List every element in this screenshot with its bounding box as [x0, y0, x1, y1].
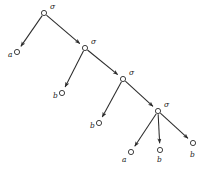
- tree-leaf-node: b: [157, 147, 163, 164]
- tree-edge: [21, 16, 42, 47]
- node-label: b: [90, 121, 95, 130]
- node-label: b: [53, 91, 58, 100]
- node-circle: [96, 120, 101, 125]
- node-label: a: [122, 155, 126, 164]
- tree-edge: [160, 113, 188, 138]
- tree-edge: [135, 114, 157, 147]
- node-circle: [120, 76, 125, 81]
- tree-edge: [87, 50, 117, 75]
- node-label: b: [157, 155, 162, 164]
- node-circle: [59, 90, 64, 95]
- edge-layer: [21, 15, 188, 146]
- node-circle: [82, 45, 87, 50]
- tree-leaf-node: b: [190, 140, 196, 159]
- tree-internal-node: σ: [41, 2, 56, 16]
- node-circle: [128, 149, 133, 154]
- tree-leaf-node: b: [53, 90, 65, 100]
- tree-leaf-node: a: [122, 149, 134, 164]
- node-label: σ: [164, 100, 170, 109]
- node-circle: [14, 49, 19, 54]
- tree-edge: [65, 51, 83, 87]
- derivation-tree-diagram: σaσbσbσabb: [0, 0, 209, 172]
- tree-internal-node: σ: [155, 100, 170, 114]
- tree-internal-node: σ: [120, 68, 135, 82]
- node-label: a: [8, 50, 12, 59]
- node-label: σ: [50, 2, 56, 11]
- node-label: σ: [91, 37, 97, 46]
- tree-edge: [158, 114, 159, 143]
- node-circle: [41, 10, 46, 15]
- tree-internal-node: σ: [82, 37, 97, 51]
- tree-edge: [46, 15, 79, 44]
- node-circle: [155, 108, 160, 113]
- tree-leaf-node: b: [90, 120, 102, 130]
- tree-edge: [125, 81, 153, 106]
- node-circle: [190, 140, 195, 145]
- tree-edge: [102, 82, 121, 117]
- node-label: σ: [129, 68, 135, 77]
- tree-canvas: σaσbσbσabb: [0, 0, 209, 172]
- node-layer: σaσbσbσabb: [8, 2, 196, 164]
- tree-leaf-node: a: [8, 49, 20, 59]
- node-label: b: [190, 150, 195, 159]
- node-circle: [157, 147, 162, 152]
